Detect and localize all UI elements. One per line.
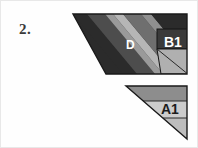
label-d: D: [126, 38, 135, 52]
figure-page: 2.: [0, 0, 198, 148]
label-b1: B1: [164, 34, 182, 50]
label-a1: A1: [161, 101, 179, 117]
striped-triangles-figure: [1, 1, 198, 148]
lower-band-bottom: [119, 118, 194, 146]
figure-stage: D B1 A1: [1, 1, 198, 148]
lower-band-middle: [119, 101, 194, 118]
lower-striped-triangle: [119, 83, 194, 146]
